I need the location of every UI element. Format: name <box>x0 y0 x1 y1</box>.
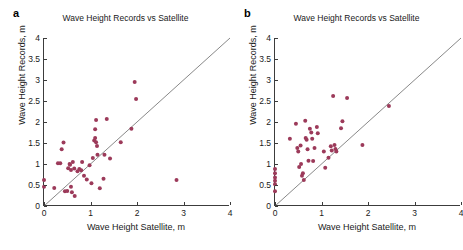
y-tick-label-a: 1 <box>35 159 40 169</box>
y-tick-mark <box>44 164 47 165</box>
scatter-point <box>345 96 349 100</box>
scatter-point <box>316 131 320 135</box>
x-tick-mark <box>415 202 416 205</box>
scatter-point <box>68 163 72 167</box>
y-tick-label-a: 0.5 <box>28 180 40 190</box>
y-tick-label-a: 0 <box>35 201 40 211</box>
y-tick-label-b: 4 <box>266 33 271 43</box>
scatter-point <box>134 97 138 101</box>
y-tick-mark <box>275 143 278 144</box>
scatter-point <box>296 149 300 153</box>
x-tick-label-b: 4 <box>459 208 463 218</box>
y-tick-label-b: 2.5 <box>259 96 271 106</box>
scatter-point <box>305 138 309 142</box>
scatter-point <box>315 125 319 129</box>
scatter-point <box>333 143 337 147</box>
y-tick-mark <box>275 164 278 165</box>
y-tick-label-a: 3 <box>35 75 40 85</box>
scatter-point <box>79 168 83 172</box>
y-axis-label-b: Wave Height Records, m <box>248 0 258 150</box>
panel-title-a: Wave Height Records vs Satellite <box>28 13 223 23</box>
panel-title-b: Wave Height Records vs Satellite <box>259 13 454 23</box>
y-tick-label-a: 3.5 <box>28 54 40 64</box>
x-tick-label-b: 2 <box>366 208 371 218</box>
scatter-point <box>310 137 314 141</box>
y-tick-mark <box>275 80 278 81</box>
panel-b: b Wave Height Records vs Satellite Wave … <box>231 0 462 250</box>
scatter-point <box>105 117 109 121</box>
scatter-point <box>306 159 310 163</box>
scatter-point <box>72 167 76 171</box>
y-tick-label-b: 3 <box>266 75 271 85</box>
scatter-point <box>95 153 99 157</box>
scatter-point <box>323 166 327 170</box>
y-tick-mark <box>275 206 278 207</box>
scatter-point <box>89 181 93 185</box>
scatter-point <box>71 160 75 164</box>
y-axis-label-a: Wave Height Records, m <box>17 0 27 150</box>
y-tick-mark <box>44 38 47 39</box>
scatter-point <box>65 189 69 193</box>
x-tick-label-a: 2 <box>135 208 140 218</box>
scatter-point <box>58 161 62 165</box>
scatter-point <box>93 127 97 131</box>
scatter-point <box>119 140 123 144</box>
y-tick-mark <box>275 122 278 123</box>
y-tick-label-a: 2 <box>35 117 40 127</box>
x-tick-label-b: 1 <box>319 208 324 218</box>
y-tick-label-a: 2.5 <box>28 96 40 106</box>
scatter-point <box>303 119 307 123</box>
scatter-point <box>329 144 333 148</box>
x-tick-label-a: 3 <box>181 208 186 218</box>
scatter-point <box>273 171 277 175</box>
plot-area-a: 00.511.522.533.5401234 <box>43 38 229 206</box>
scatter-point <box>322 149 326 153</box>
x-tick-mark <box>461 202 462 205</box>
scatter-point <box>326 156 330 160</box>
y-tick-label-a: 1.5 <box>28 138 40 148</box>
y-tick-mark <box>44 122 47 123</box>
scatter-point <box>80 160 84 164</box>
scatter-point <box>85 178 89 182</box>
scatter-point <box>302 178 306 182</box>
scatter-point <box>94 118 98 122</box>
scatter-point <box>339 126 343 130</box>
y-tick-mark <box>275 101 278 102</box>
y-tick-mark <box>44 80 47 81</box>
y-tick-mark <box>275 59 278 60</box>
x-tick-mark <box>275 202 276 205</box>
x-tick-label-a: 1 <box>88 208 93 218</box>
x-tick-mark <box>44 202 45 205</box>
scatter-point <box>93 136 97 140</box>
x-tick-mark <box>137 202 138 205</box>
scatter-point <box>102 177 106 181</box>
x-axis-label-b: Wave Height Satellite, m <box>274 222 460 232</box>
scatter-point <box>42 178 46 182</box>
scatter-point <box>295 146 299 150</box>
scatter-point <box>60 147 64 151</box>
y-tick-mark <box>44 206 47 207</box>
y-tick-mark <box>44 101 47 102</box>
x-tick-label-b: 0 <box>273 208 278 218</box>
scatter-point <box>73 194 77 198</box>
scatter-point <box>88 163 92 167</box>
y-tick-label-b: 1 <box>266 159 271 169</box>
x-tick-label-b: 3 <box>412 208 417 218</box>
scatter-point <box>311 159 315 163</box>
y-tick-mark <box>44 143 47 144</box>
x-tick-mark <box>322 202 323 205</box>
y-tick-label-a: 4 <box>35 33 40 43</box>
scatter-point <box>52 186 56 190</box>
scatter-point <box>91 156 95 160</box>
y-tick-label-b: 3.5 <box>259 54 271 64</box>
scatter-point <box>108 157 112 161</box>
y-tick-label-b: 0 <box>266 201 271 211</box>
y-tick-label-b: 2 <box>266 117 271 127</box>
scatter-point <box>331 94 335 98</box>
reference-line-one-to-one <box>44 38 230 206</box>
scatter-point <box>70 190 74 194</box>
scatter-point <box>309 131 313 135</box>
scatter-point <box>69 185 73 189</box>
scatter-point <box>294 122 298 126</box>
scatter-point <box>273 167 277 171</box>
